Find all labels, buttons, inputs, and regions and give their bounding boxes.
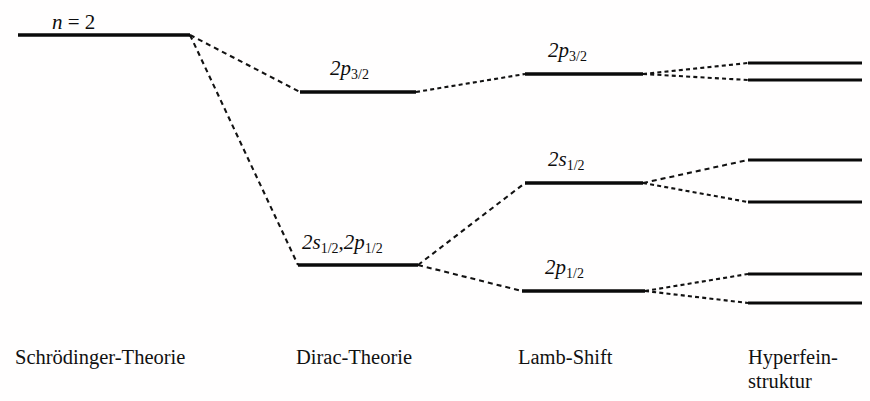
connector-lamb2s12-to-hf-lower — [643, 183, 748, 202]
connector-lamb2p12-to-hf-upper — [645, 274, 748, 291]
connector-dirac2p32-to-lamb2p32 — [416, 74, 525, 92]
term-base: 2s — [302, 230, 321, 254]
term-base: 2p — [548, 38, 569, 62]
level-label-lamb-2s12: 2s1/2 — [548, 149, 585, 173]
column-caption-dirac: Dirac-Theorie — [296, 345, 412, 369]
term-subscript: 3/2 — [351, 67, 369, 82]
diagram-canvas — [0, 0, 870, 401]
connector-dirac2s-to-lamb2p12 — [418, 265, 522, 291]
term-subscript-2: 1/2 — [365, 241, 383, 256]
connector-lamb2p32-to-hf-upper — [643, 63, 748, 74]
level-label-lamb-2p12: 2p1/2 — [545, 257, 584, 281]
connector-lamb2s12-to-hf-upper — [643, 160, 748, 183]
column-caption-hyperfine-line1: Hyperfein- — [748, 345, 838, 369]
term-subscript: 1/2 — [566, 266, 584, 281]
n-variable: n — [52, 10, 63, 34]
level-label-dirac-2p32: 2p3/2 — [330, 58, 369, 82]
level-label-dirac-2s12-2p12: 2s1/2,2p1/2 — [302, 232, 383, 256]
term-base: 2p — [545, 255, 566, 279]
term-subscript: 1/2 — [567, 158, 585, 173]
column-caption-hyperfine: Hyperfein- struktur — [748, 345, 838, 393]
connector-n2-to-2p32 — [190, 35, 300, 92]
n-equals-sign: = — [68, 10, 80, 34]
term-base: 2s — [548, 147, 567, 171]
term-subscript: 3/2 — [569, 49, 587, 64]
level-label-n2: n = 2 — [52, 10, 95, 35]
column-caption-schroedinger: Schrödinger-Theorie — [15, 345, 185, 369]
level-lines — [18, 35, 862, 303]
connector-lamb2p12-to-hf-lower — [645, 291, 748, 303]
column-caption-lamb-shift: Lamb-Shift — [518, 345, 613, 369]
term-subscript: 1/2 — [321, 241, 339, 256]
level-label-lamb-2p32: 2p3/2 — [548, 40, 587, 64]
energy-level-diagram: n = 2 2p3/2 2s1/2,2p1/2 2p3/2 2s1/2 2p1/… — [0, 0, 870, 401]
n-value: 2 — [85, 10, 96, 34]
connector-n2-to-2s12-2p12 — [190, 35, 298, 265]
connector-lamb2p32-to-hf-lower — [643, 74, 748, 80]
column-caption-hyperfine-line2: struktur — [748, 369, 838, 393]
term-base-2: 2p — [344, 230, 365, 254]
connector-lines — [190, 35, 748, 303]
term-base: 2p — [330, 56, 351, 80]
connector-dirac2s-to-lamb2s12 — [418, 183, 525, 265]
